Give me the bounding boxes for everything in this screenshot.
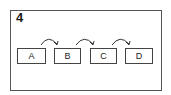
diagram-number-label: 4 [16, 11, 23, 24]
node-d: D [125, 48, 153, 64]
node-a-label: A [28, 51, 34, 61]
node-b-label: B [64, 51, 70, 61]
node-c: C [90, 48, 117, 64]
diagram-canvas: 4 A B C D [0, 0, 171, 95]
node-b: B [54, 48, 81, 64]
node-c-label: C [100, 51, 107, 61]
node-d-label: D [136, 51, 143, 61]
node-a: A [17, 48, 46, 64]
